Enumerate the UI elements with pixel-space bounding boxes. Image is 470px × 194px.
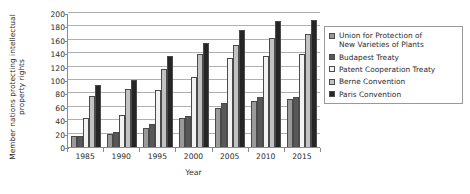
legend-label: Union for Protection of New Varieties of… [339, 31, 424, 49]
bar [311, 20, 317, 147]
x-axis-tick-label: 2010 [248, 152, 284, 161]
plot-area [67, 14, 320, 148]
bar-group [68, 14, 104, 147]
legend-label: Budapest Treaty [339, 53, 399, 62]
legend-swatch-icon [329, 66, 335, 72]
x-axis-tick-label: 1985 [67, 152, 103, 161]
legend-swatch-icon [329, 91, 335, 97]
bar-group [248, 14, 284, 147]
gridline [68, 12, 320, 13]
y-axis-title-container: Member nations protecting intellectual p… [8, 12, 42, 162]
legend-item[interactable]: Berne Convention [329, 77, 458, 86]
bar [167, 56, 173, 147]
y-axis-tick-label: 120 [43, 63, 65, 72]
chart-figure: Member nations protecting intellectual p… [0, 0, 470, 194]
y-axis-tick-label: 140 [43, 50, 65, 59]
legend-label: Patent Cooperation Treaty [339, 65, 435, 74]
legend-item[interactable]: Union for Protection of New Varieties of… [329, 31, 458, 49]
legend-swatch-icon [329, 33, 335, 39]
y-axis-tick-label: 60 [43, 103, 65, 112]
bar [239, 30, 245, 147]
bar [203, 43, 209, 147]
bar-group [284, 14, 320, 147]
legend-label: Paris Convention [339, 90, 401, 99]
y-axis-tick-label: 160 [43, 36, 65, 45]
y-axis-title: Member nations protecting intellectual p… [8, 12, 42, 162]
legend-label: Berne Convention [339, 77, 405, 86]
x-axis-tick-labels: 1985199019952000200520102015 [67, 152, 320, 161]
y-axis-tick-label: 200 [43, 10, 65, 19]
x-axis-tick-label: 2005 [212, 152, 248, 161]
bar-group [176, 14, 212, 147]
bar [275, 21, 281, 147]
y-axis-tick-label: 100 [43, 77, 65, 86]
x-axis-tick-label: 1995 [139, 152, 175, 161]
y-axis-tick-labels: 020406080100120140160180200 [41, 14, 65, 148]
legend-item[interactable]: Paris Convention [329, 90, 458, 99]
x-axis-tick-label: 1990 [103, 152, 139, 161]
bar [131, 80, 137, 147]
legend: Union for Protection of New Varieties of… [324, 26, 463, 104]
y-axis-tick-label: 180 [43, 23, 65, 32]
bar-groups [68, 14, 320, 147]
y-axis-tick-label: 40 [43, 117, 65, 126]
bar-group [104, 14, 140, 147]
x-axis-tick-label: 2000 [175, 152, 211, 161]
x-axis-tick-mark [320, 148, 321, 152]
legend-swatch-icon [329, 54, 335, 60]
x-axis-title: Year [67, 168, 320, 177]
y-axis-tick-label: 80 [43, 90, 65, 99]
bar [95, 85, 101, 147]
y-axis-tick-label: 0 [43, 144, 65, 153]
bar-group [140, 14, 176, 147]
bar-group [212, 14, 248, 147]
y-axis-tick-label: 20 [43, 130, 65, 139]
legend-swatch-icon [329, 79, 335, 85]
x-axis-tick-label: 2015 [284, 152, 320, 161]
legend-item[interactable]: Patent Cooperation Treaty [329, 65, 458, 74]
legend-item[interactable]: Budapest Treaty [329, 53, 458, 62]
